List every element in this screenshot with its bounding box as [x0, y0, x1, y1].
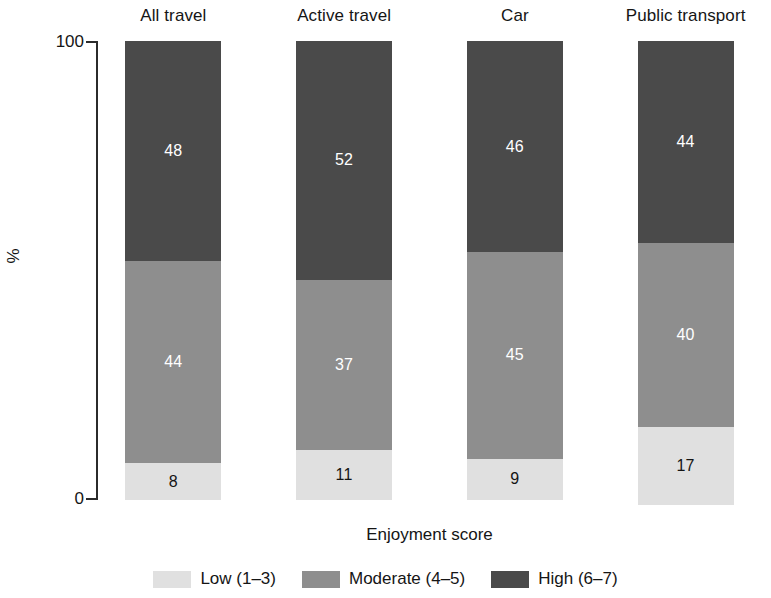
bar-segment-low[interactable]: 9 — [467, 459, 563, 500]
bar-segment-high[interactable]: 48 — [125, 41, 221, 261]
legend-label-high: High (6–7) — [538, 569, 617, 589]
legend-swatch-high — [491, 571, 529, 588]
bar-cell-active-travel: 52 37 11 — [259, 41, 430, 500]
legend-item-high[interactable]: High (6–7) — [491, 569, 617, 589]
y-axis-title: % — [4, 238, 44, 274]
bar-segment-moderate[interactable]: 37 — [296, 280, 392, 450]
bar-cell-car: 46 45 9 — [430, 41, 601, 500]
chart-figure: All travel Active travel Car Public tran… — [0, 0, 771, 598]
bar-segment-low[interactable]: 17 — [638, 427, 734, 505]
y-axis-tick-label-0: 0 — [24, 489, 84, 509]
bar-segment-moderate[interactable]: 45 — [467, 252, 563, 459]
bar-segment-low[interactable]: 11 — [296, 450, 392, 500]
legend-label-low: Low (1–3) — [200, 569, 276, 589]
y-axis-tick-label-100: 100 — [24, 32, 84, 52]
legend-label-moderate: Moderate (4–5) — [349, 569, 465, 589]
panel-title-car: Car — [430, 5, 601, 27]
x-axis-title: Enjoyment score — [88, 524, 771, 546]
bar-segment-high[interactable]: 44 — [638, 41, 734, 243]
plot-area: 48 44 8 52 37 11 46 45 9 44 40 17 — [88, 41, 771, 500]
bar-segment-moderate[interactable]: 44 — [125, 261, 221, 463]
panel-title-public-transport: Public transport — [600, 5, 771, 27]
panel-title-active-travel: Active travel — [259, 5, 430, 27]
stacked-bar-all-travel[interactable]: 48 44 8 — [125, 41, 221, 500]
stacked-bar-public-transport[interactable]: 44 40 17 — [638, 41, 734, 500]
bar-segment-high[interactable]: 52 — [296, 41, 392, 280]
bar-segment-moderate[interactable]: 40 — [638, 243, 734, 427]
bar-cell-all-travel: 48 44 8 — [88, 41, 259, 500]
stacked-bar-active-travel[interactable]: 52 37 11 — [296, 41, 392, 500]
legend-swatch-moderate — [302, 571, 340, 588]
bar-segment-low[interactable]: 8 — [125, 463, 221, 500]
bar-cell-public-transport: 44 40 17 — [600, 41, 771, 500]
stacked-bar-car[interactable]: 46 45 9 — [467, 41, 563, 500]
legend: Low (1–3) Moderate (4–5) High (6–7) — [0, 566, 771, 592]
panel-titles-row: All travel Active travel Car Public tran… — [88, 2, 771, 30]
legend-item-moderate[interactable]: Moderate (4–5) — [302, 569, 465, 589]
panel-title-all-travel: All travel — [88, 5, 259, 27]
legend-item-low[interactable]: Low (1–3) — [153, 569, 276, 589]
bar-segment-high[interactable]: 46 — [467, 41, 563, 252]
legend-swatch-low — [153, 571, 191, 588]
